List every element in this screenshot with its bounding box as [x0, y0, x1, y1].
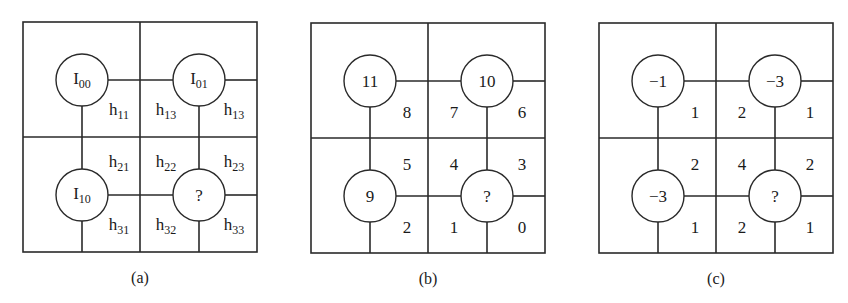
grid-diagram: [599, 23, 835, 255]
node-label: ?: [483, 188, 491, 205]
cell-value-text: h: [156, 215, 165, 234]
cell-value-text: 7: [450, 103, 459, 122]
cell-value-subscript: 11: [117, 108, 129, 122]
cell-value-subscript: 22: [164, 160, 176, 174]
cell-value: h23: [224, 153, 245, 173]
cell-value: h21: [109, 153, 130, 173]
cell-value-text: 6: [518, 103, 527, 122]
panel-c: −1−3−3?121242121(c): [599, 23, 848, 303]
cell-value: h13: [156, 101, 177, 121]
cell-value: 4: [450, 156, 459, 173]
cell-value-text: 0: [518, 218, 527, 237]
panel-caption: (c): [707, 270, 725, 288]
node-label: I01: [190, 70, 208, 90]
cell-value-text: h: [109, 215, 118, 234]
node-label: 9: [366, 188, 375, 205]
cell-value-text: 2: [738, 103, 747, 122]
cell-value-text: h: [109, 152, 118, 171]
cell-value: 5: [403, 156, 412, 173]
cell-value: h22: [156, 153, 177, 173]
cell-value-text: 1: [691, 218, 700, 237]
node-label-text: −3: [649, 187, 667, 206]
grid-diagram: [311, 23, 547, 255]
cell-value-subscript: 21: [117, 160, 129, 174]
cell-value-text: 1: [691, 103, 700, 122]
cell-value-text: h: [224, 215, 233, 234]
panel-a: I00I01I10?h11h13h13h21h22h23h31h32h33(a): [23, 22, 303, 303]
cell-value: 1: [450, 219, 459, 236]
cell-value: 6: [518, 104, 527, 121]
cell-value: h31: [109, 216, 130, 236]
cell-value-text: 2: [738, 218, 747, 237]
node-label: I00: [73, 70, 91, 90]
node-label: −1: [649, 73, 667, 90]
panel-caption: (b): [419, 270, 438, 288]
cell-value: 1: [691, 219, 700, 236]
node-label-text: −3: [766, 72, 784, 91]
cell-value: 4: [738, 156, 747, 173]
node-label-text: ?: [195, 186, 203, 205]
panel-caption: (a): [131, 269, 149, 287]
node-label: 10: [479, 73, 496, 90]
node-label: I10: [73, 185, 91, 205]
cell-value-text: 4: [738, 155, 747, 174]
cell-value: 0: [518, 219, 527, 236]
cell-value: h32: [156, 216, 177, 236]
cell-value-text: 2: [403, 218, 412, 237]
node-label: ?: [195, 187, 203, 204]
cell-value: 1: [806, 104, 815, 121]
node-label-text: ?: [771, 187, 779, 206]
node-label-subscript: 10: [79, 192, 91, 206]
node-label-text: ?: [483, 187, 491, 206]
cell-value: 2: [806, 156, 815, 173]
cell-value: 3: [518, 156, 527, 173]
node-label-subscript: 00: [79, 77, 91, 91]
cell-value-text: h: [224, 152, 233, 171]
cell-value-subscript: 32: [164, 223, 176, 237]
cell-value: 2: [738, 104, 747, 121]
panel-b: 11109?876543210(b): [311, 23, 591, 303]
cell-value-text: h: [109, 100, 118, 119]
cell-value-text: 4: [450, 155, 459, 174]
cell-value: 2: [403, 219, 412, 236]
node-label-text: 11: [362, 72, 378, 91]
cell-value: h33: [224, 216, 245, 236]
node-label-text: 10: [479, 72, 496, 91]
cell-value: 1: [691, 104, 700, 121]
node-label-text: 9: [366, 187, 375, 206]
cell-value-text: 2: [691, 155, 700, 174]
cell-value: 1: [806, 219, 815, 236]
cell-value: 7: [450, 104, 459, 121]
node-label: −3: [649, 188, 667, 205]
cell-value: 2: [738, 219, 747, 236]
cell-value-subscript: 23: [232, 160, 244, 174]
cell-value: 2: [691, 156, 700, 173]
cell-value-subscript: 13: [232, 108, 244, 122]
cell-value-text: h: [156, 152, 165, 171]
cell-value-text: 1: [806, 218, 815, 237]
cell-value: h11: [109, 101, 129, 121]
node-label: −3: [766, 73, 784, 90]
cell-value-subscript: 13: [164, 108, 176, 122]
cell-value-text: 1: [806, 103, 815, 122]
cell-value-text: 8: [403, 103, 412, 122]
cell-value: h13: [224, 101, 245, 121]
cell-value-text: 3: [518, 155, 527, 174]
cell-value-text: h: [156, 100, 165, 119]
node-label: 11: [362, 73, 378, 90]
node-label-text: −1: [649, 72, 667, 91]
node-label: ?: [771, 188, 779, 205]
cell-value-text: 5: [403, 155, 412, 174]
cell-value-subscript: 31: [117, 223, 129, 237]
cell-value-text: 1: [450, 218, 459, 237]
node-label-subscript: 01: [196, 77, 208, 91]
cell-value-text: 2: [806, 155, 815, 174]
cell-value-text: h: [224, 100, 233, 119]
cell-value: 8: [403, 104, 412, 121]
cell-value-subscript: 33: [232, 223, 244, 237]
